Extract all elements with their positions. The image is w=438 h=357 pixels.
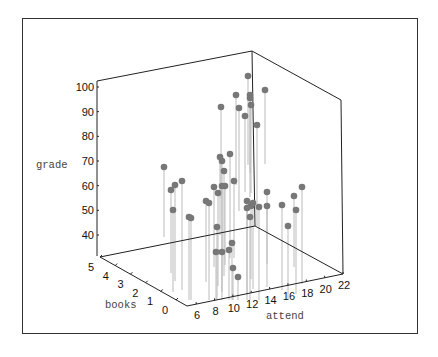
z-tick-label: 40	[82, 229, 94, 241]
data-point	[291, 193, 298, 200]
data-point	[215, 190, 222, 197]
data-point	[179, 178, 186, 185]
data-point	[219, 249, 226, 256]
data-point	[248, 102, 255, 109]
data-point	[161, 164, 168, 171]
z-tick-label: 60	[82, 180, 94, 192]
data-point	[244, 198, 251, 205]
data-point	[230, 265, 237, 272]
z-axis-ticks: 405060708090100	[76, 81, 99, 241]
y-tick-label: 2	[132, 287, 138, 299]
data-point	[245, 73, 252, 80]
y-tick-label: 5	[88, 261, 94, 273]
data-point	[250, 200, 257, 207]
x-tick-label: 16	[283, 290, 295, 302]
y-axis-label: books	[105, 299, 137, 311]
data-point	[264, 203, 271, 210]
x-tick-label: 20	[320, 283, 332, 295]
data-point	[256, 204, 263, 211]
x-tick-label: 10	[228, 302, 240, 314]
z-tick-label: 90	[82, 106, 94, 118]
data-point	[299, 184, 306, 191]
y-tick-label: 0	[162, 304, 168, 316]
data-point	[222, 183, 229, 190]
y-tick-label: 3	[117, 278, 123, 290]
data-point	[233, 92, 240, 99]
data-point	[172, 182, 179, 189]
data-point	[218, 104, 225, 111]
x-tick-label: 6	[194, 309, 200, 321]
data-point	[211, 184, 218, 191]
data-point	[285, 223, 292, 230]
y-tick-label: 4	[103, 270, 109, 282]
data-point	[226, 247, 233, 254]
data-point	[206, 200, 213, 207]
data-point	[262, 87, 269, 94]
z-tick-label: 100	[76, 81, 94, 93]
data-point	[214, 224, 221, 231]
y-tick-label: 1	[147, 295, 153, 307]
z-tick-label: 70	[82, 155, 94, 167]
data-point	[254, 122, 261, 129]
z-tick-label: 50	[82, 204, 94, 216]
x-axis-label: attend	[266, 310, 304, 322]
data-point	[231, 178, 238, 185]
x-tick-label: 12	[246, 298, 258, 310]
data-point	[227, 151, 234, 158]
data-point	[242, 113, 249, 120]
data-point	[170, 207, 177, 214]
data-point	[235, 274, 242, 281]
x-tick-label: 22	[338, 279, 350, 291]
z-axis-label: grade	[36, 159, 68, 171]
data-point	[236, 105, 243, 112]
data-point	[279, 202, 286, 209]
data-point	[247, 214, 254, 221]
data-point	[229, 240, 236, 247]
x-tick-label: 14	[264, 294, 276, 306]
data-point	[188, 215, 195, 222]
data-point	[217, 154, 224, 161]
scatter-3d-plot: 405060708090100 012345 6810121416182022 …	[0, 0, 438, 357]
data-point	[213, 249, 220, 256]
data-point	[264, 189, 271, 196]
x-tick-label: 18	[301, 287, 313, 299]
data-point	[221, 168, 228, 175]
data-point	[247, 95, 254, 102]
z-tick-label: 80	[82, 130, 94, 142]
x-tick-label: 8	[212, 305, 218, 317]
data-point	[293, 207, 300, 214]
